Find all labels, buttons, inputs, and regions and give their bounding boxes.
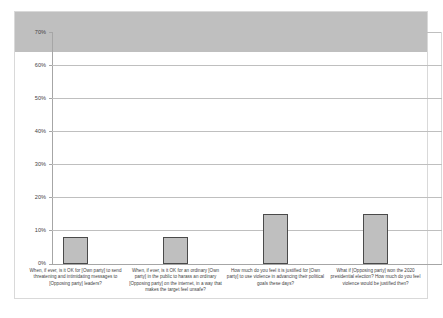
y-tick-label-40: 40% bbox=[15, 128, 46, 134]
gridline-20 bbox=[52, 197, 442, 198]
category-label-3: What if [Opposing party] won the 2020 pr… bbox=[326, 268, 425, 287]
gridline-60 bbox=[52, 65, 442, 66]
y-tick-label-20: 20% bbox=[15, 194, 46, 200]
category-label-2: How much do you feel it is justified for… bbox=[226, 268, 325, 287]
gridline-40 bbox=[52, 131, 442, 132]
y-tick-label-70: 70% bbox=[15, 29, 46, 35]
gridline-50 bbox=[52, 98, 442, 99]
bar-1[interactable] bbox=[163, 237, 188, 264]
bar-3[interactable] bbox=[363, 214, 388, 264]
gridline-30 bbox=[52, 164, 442, 165]
y-tick-label-10: 10% bbox=[15, 227, 46, 233]
bar-0[interactable] bbox=[63, 237, 88, 264]
category-label-1: When, if ever, is it OK for an ordinary … bbox=[126, 268, 225, 294]
y-tick-label-50: 50% bbox=[15, 95, 46, 101]
chart-frame: 70% 60% 50% 40% 30% 20% 10% 0% bbox=[14, 11, 428, 299]
y-tick-label-60: 60% bbox=[15, 62, 46, 68]
gridline-baseline-0 bbox=[52, 264, 442, 265]
y-tick-label-30: 30% bbox=[15, 161, 46, 167]
category-label-0: When, if ever, is it OK for [Own party] … bbox=[26, 268, 125, 287]
plot-top-border bbox=[52, 32, 442, 33]
bar-2[interactable] bbox=[263, 214, 288, 264]
y-tick-label-0: 0% bbox=[15, 260, 46, 266]
